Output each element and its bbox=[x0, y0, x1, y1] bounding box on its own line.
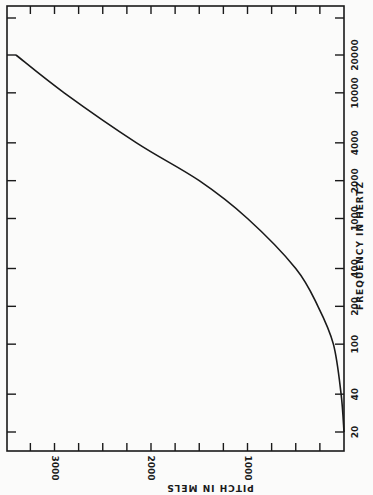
frequency-tick-label: 10000 bbox=[350, 77, 360, 108]
plot-border bbox=[7, 6, 344, 451]
pitch-tick-labels: 100020003000 bbox=[50, 455, 253, 480]
pitch-tick-label: 2000 bbox=[146, 455, 156, 480]
frequency-tick-label: 20 bbox=[350, 426, 360, 439]
mel-scale-chart: 20401002004001000200040001000020000 1000… bbox=[0, 0, 373, 495]
pitch-tick-label: 3000 bbox=[50, 455, 60, 480]
frequency-tick-label: 4000 bbox=[350, 130, 360, 155]
mel-curve bbox=[16, 55, 344, 432]
frequency-tick-label: 40 bbox=[350, 388, 360, 401]
plot-frame bbox=[7, 6, 344, 451]
frequency-axis-title: FREQUENCY IN HERTZ bbox=[355, 181, 365, 310]
pitch-axis-title: PITCH IN MELS bbox=[166, 483, 254, 493]
axis-ticks bbox=[7, 6, 344, 451]
frequency-tick-label: 100 bbox=[350, 335, 360, 354]
frequency-tick-label: 20000 bbox=[350, 39, 360, 70]
pitch-tick-label: 1000 bbox=[243, 455, 253, 480]
